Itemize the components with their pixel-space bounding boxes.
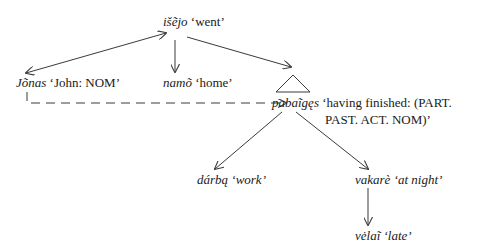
node-pabaiges-gloss-line2: PAST. ACT. NOM)’: [325, 112, 431, 127]
edge-isejo-jonas: [26, 33, 166, 73]
node-darba-word: dárbą: [197, 172, 228, 187]
node-vakare: vakarè ‘at night’: [355, 172, 442, 187]
dependency-diagram: išẽjo ‘went’ Jõnas ‘John: NOM’ namõ ‘hom…: [0, 0, 481, 249]
node-isejo: išẽjo ‘went’: [163, 14, 225, 29]
node-jonas: Jõnas ‘John: NOM’: [16, 75, 120, 90]
node-velai-gloss: ‘late’: [384, 228, 412, 243]
node-jonas-word: Jõnas: [16, 75, 46, 90]
node-vakare-word: vakarè: [355, 172, 390, 187]
node-namo-word: namõ: [163, 75, 192, 90]
node-pabaiges-gloss-line1: ‘having finished: (PART.: [322, 95, 452, 110]
node-darba-gloss: ‘work’: [231, 172, 266, 187]
node-velai: vėlaĩ ‘late’: [355, 228, 412, 243]
node-namo-gloss: ‘home’: [195, 75, 233, 90]
node-velai-word: vėlaĩ: [355, 228, 380, 243]
node-pabaiges: pabaĩgęs ‘having finished: (PART.: [272, 95, 452, 110]
node-pabaiges-gloss-cont: PAST. ACT. NOM)’: [325, 112, 431, 127]
triangle-icon: [276, 75, 310, 92]
edge-pabaiges-darba: [215, 112, 282, 169]
node-vakare-gloss: ‘at night’: [394, 172, 443, 187]
edge-jonas-pabaiges-dashed: [27, 92, 286, 103]
node-jonas-gloss: ‘John: NOM’: [50, 75, 120, 90]
node-namo: namõ ‘home’: [163, 75, 233, 90]
edge-isejo-pabaiges: [187, 37, 291, 67]
node-darba: dárbą ‘work’: [197, 172, 266, 187]
node-pabaiges-word: pabaĩgęs: [272, 95, 319, 110]
node-isejo-gloss: ‘went’: [191, 14, 225, 29]
node-isejo-word: išẽjo: [163, 14, 188, 29]
